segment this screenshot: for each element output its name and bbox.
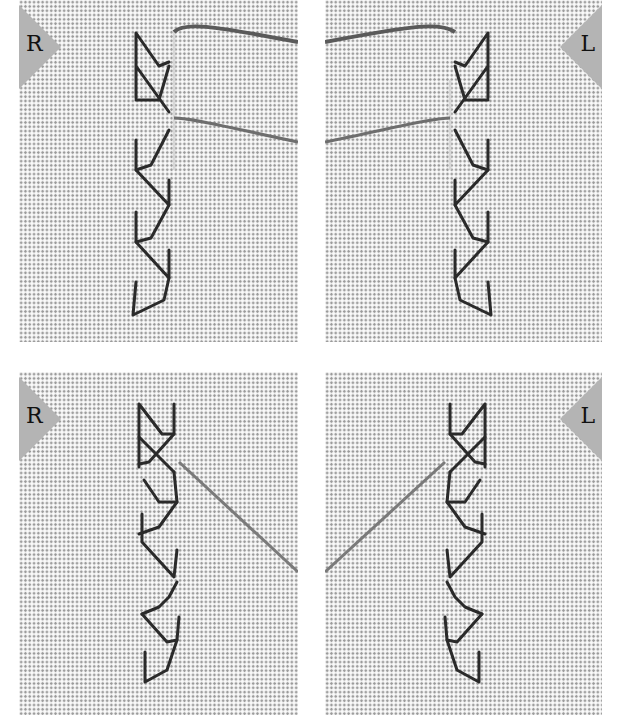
panel-top-left: R (19, 0, 298, 342)
chevron-stitch-icon (325, 372, 602, 715)
panel-top-right: L (325, 0, 602, 342)
chevron-stitch-icon (19, 0, 298, 342)
working-thread (179, 462, 298, 572)
chevron-stitch-icon (19, 372, 298, 715)
panel-bottom-right: L (325, 372, 602, 715)
working-thread (325, 462, 445, 572)
chevron-stitch-icon (325, 0, 602, 342)
panel-bottom-left: R (19, 372, 298, 715)
